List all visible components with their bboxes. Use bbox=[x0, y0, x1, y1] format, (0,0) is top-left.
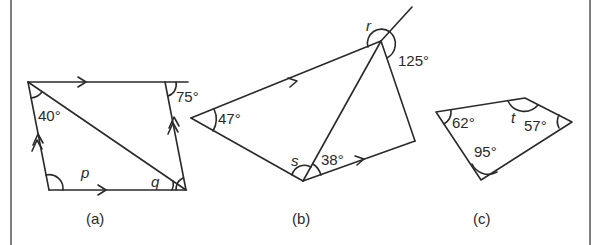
b-angle-arc-125 bbox=[387, 32, 395, 58]
a-angle-arc-q bbox=[172, 181, 173, 190]
c-angle-95-label: 95° bbox=[474, 143, 497, 160]
c-angle-t-label: t bbox=[511, 109, 516, 126]
b-angle-r-label: r bbox=[366, 17, 372, 34]
a-caption: (a) bbox=[86, 210, 104, 227]
b-angle-arc-38 bbox=[313, 164, 321, 175]
c-caption: (c) bbox=[473, 210, 491, 227]
diagram-a bbox=[28, 77, 188, 195]
b-angle-125-label: 125° bbox=[398, 52, 429, 69]
a-angle-75-label: 75° bbox=[176, 88, 199, 105]
c-angle-62-label: 62° bbox=[452, 114, 475, 131]
c-quadrilateral bbox=[436, 98, 572, 180]
b-angle-47-label: 47° bbox=[218, 110, 241, 127]
b-angle-s-label: s bbox=[291, 152, 299, 169]
a-angle-arc-q-right bbox=[176, 178, 183, 190]
b-parallel-arrow-upper-icon bbox=[288, 78, 297, 87]
b-lower-right-edge bbox=[303, 141, 415, 181]
c-angle-arc-57 bbox=[557, 115, 559, 128]
c-angle-57-label: 57° bbox=[524, 117, 547, 134]
c-angle-arc-62 bbox=[444, 110, 451, 124]
a-angle-arc-40 bbox=[31, 92, 42, 98]
diagram-c bbox=[436, 98, 572, 180]
b-angle-arc-47 bbox=[213, 109, 216, 131]
b-caption: (b) bbox=[292, 210, 310, 227]
a-diagonal bbox=[28, 82, 186, 190]
b-lower-left-edge bbox=[191, 118, 303, 181]
b-upper-left-edge bbox=[191, 41, 381, 118]
b-angle-38-label: 38° bbox=[321, 151, 344, 168]
b-extension-line bbox=[381, 7, 412, 41]
diagram-b bbox=[191, 7, 415, 181]
a-angle-p-label: p bbox=[80, 164, 89, 181]
a-angle-q-label: q bbox=[151, 173, 160, 190]
a-angle-40-label: 40° bbox=[38, 107, 61, 124]
geometry-figure: 40° 75° p q (a) 47° 125° 38° r s (b) bbox=[0, 0, 600, 245]
